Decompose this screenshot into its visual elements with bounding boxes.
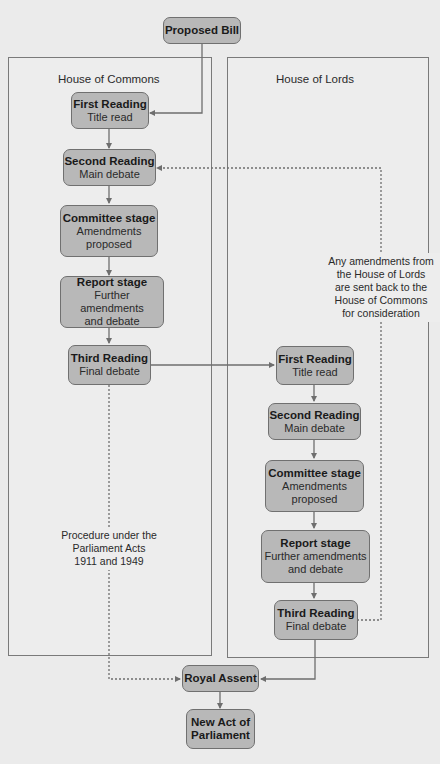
parliament-acts-note: Procedure under the Parliament Acts 1911… (50, 527, 168, 570)
lords-second-reading-node: Second Reading Main debate (268, 403, 361, 440)
lords-amendments-note: Any amendments from the House of Lords a… (322, 253, 440, 322)
commons-report-stage-node: Report stage Further amendments and deba… (60, 276, 164, 328)
commons-second-reading-node: Second Reading Main debate (63, 149, 156, 186)
lords-committee-stage-node: Committee stage Amendments proposed (265, 460, 364, 512)
proposed-bill-node: Proposed Bill (163, 17, 241, 44)
lords-report-stage-node: Report stage Further amendments and deba… (261, 530, 370, 583)
commons-committee-stage-node: Committee stage Amendments proposed (60, 205, 158, 257)
commons-first-reading-node: First Reading Title read (71, 92, 149, 129)
royal-assent-node: Royal Assent (182, 665, 259, 692)
commons-third-reading-node: Third Reading Final debate (68, 345, 151, 385)
lords-first-reading-node: First Reading Title read (276, 346, 354, 385)
lords-third-reading-node: Third Reading Final debate (274, 600, 358, 640)
new-act-node: New Act of Parliament (186, 709, 255, 749)
